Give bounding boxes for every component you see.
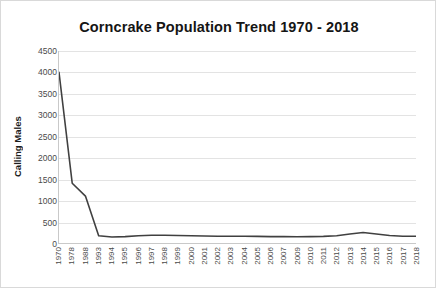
y-axis-tick-4000: 4000 — [38, 67, 57, 77]
data-line-calling-males — [59, 72, 416, 237]
y-axis-tick-1500: 1500 — [38, 175, 57, 185]
x-axis-tick-1994: 1994 — [107, 247, 116, 265]
x-axis-tick-2001: 2001 — [200, 247, 209, 265]
y-axis-tick-1000: 1000 — [38, 196, 57, 206]
x-axis-tick-2002: 2002 — [213, 247, 222, 265]
x-axis-tick-2005: 2005 — [253, 247, 262, 265]
x-axis-tick-2003: 2003 — [226, 247, 235, 265]
x-axis-tick-2009: 2009 — [293, 247, 302, 265]
x-axis-tick-2004: 2004 — [240, 247, 249, 265]
x-axis-tick-2012: 2012 — [332, 247, 341, 265]
x-axis-tick-2014: 2014 — [359, 247, 368, 265]
x-axis-tick-2006: 2006 — [266, 247, 275, 265]
chart-title: Corncrake Population Trend 1970 - 2018 — [1, 19, 436, 35]
chart-container: Corncrake Population Trend 1970 - 2018 C… — [0, 0, 436, 288]
x-axis-tick-2010: 2010 — [306, 247, 315, 265]
x-axis-tick-2011: 2011 — [319, 247, 328, 264]
x-axis-tick-1988: 1988 — [81, 247, 90, 265]
x-axis-tick-1993: 1993 — [94, 247, 103, 265]
x-axis-tick-2018: 2018 — [412, 247, 421, 265]
x-axis-tick-1978: 1978 — [67, 247, 76, 265]
x-axis-tick-labels: 1970197819881993199419951996199719981999… — [58, 247, 416, 287]
y-axis-tick-3500: 3500 — [38, 89, 57, 99]
y-axis-tick-2000: 2000 — [38, 153, 57, 163]
x-axis-tick-2007: 2007 — [279, 247, 288, 265]
line-series-svg — [59, 51, 416, 243]
x-axis-tick-2013: 2013 — [346, 247, 355, 265]
x-axis-tick-1999: 1999 — [173, 247, 182, 265]
x-axis-tick-1997: 1997 — [147, 247, 156, 265]
x-axis-tick-2015: 2015 — [372, 247, 381, 265]
x-axis-tick-1970: 1970 — [54, 247, 63, 265]
x-axis-tick-1998: 1998 — [160, 247, 169, 265]
y-axis-tick-4500: 4500 — [38, 46, 57, 56]
y-axis-tick-3000: 3000 — [38, 110, 57, 120]
x-axis-tick-2000: 2000 — [187, 247, 196, 265]
y-axis-tick-2500: 2500 — [38, 132, 57, 142]
y-axis-tick-labels: 450040003500300025002000150010005000 — [23, 45, 57, 249]
plot-area — [58, 51, 416, 244]
x-axis-tick-1995: 1995 — [120, 247, 129, 265]
y-axis-tick-500: 500 — [43, 218, 57, 228]
x-axis-tick-2016: 2016 — [385, 247, 394, 265]
x-axis-tick-2017: 2017 — [399, 247, 408, 265]
x-axis-tick-1996: 1996 — [134, 247, 143, 265]
